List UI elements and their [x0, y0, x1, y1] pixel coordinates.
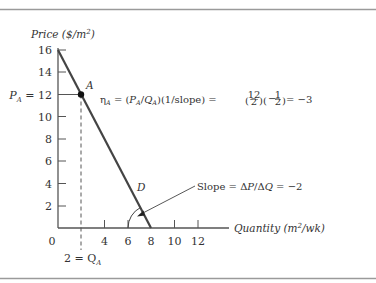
svg-text:2: 2: [251, 96, 257, 107]
y-ticks: [58, 50, 66, 206]
svg-text:(: (: [263, 95, 267, 106]
svg-text:4: 4: [101, 235, 108, 248]
y-tick-labels: 16 14 10 8 6 4 2: [38, 44, 52, 213]
svg-text:8: 8: [45, 133, 52, 146]
svg-text:ηA = (PA/QA)(1/slope) =: ηA = (PA/QA)(1/slope) =: [100, 94, 217, 107]
svg-text:6: 6: [125, 235, 132, 248]
svg-text:2: 2: [45, 200, 52, 213]
arrowhead-icon: [137, 211, 145, 217]
quantity-a-label: 2 = QA: [64, 252, 101, 267]
svg-text:8: 8: [148, 235, 155, 248]
svg-text:16: 16: [38, 44, 52, 57]
slope-annotation: Slope = ΔP/ΔQ = −2: [197, 181, 302, 192]
svg-text:0: 0: [49, 235, 56, 248]
svg-text:14: 14: [38, 66, 52, 79]
svg-text:2: 2: [275, 96, 281, 107]
price-a-label: PA = 12: [8, 89, 52, 104]
elasticity-equation: ηA = (PA/QA)(1/slope) = ( 12 2 ) ( − 1 2…: [100, 89, 312, 107]
y-axis-label: Price ($/m2): [30, 28, 95, 40]
demand-chart: Price ($/m2) 16 14 10 8 6 4 2 PA = 12 0 …: [0, 0, 376, 283]
point-a-marker: [78, 91, 84, 97]
svg-text:4: 4: [45, 178, 52, 191]
svg-text:10: 10: [38, 111, 52, 124]
svg-text:12: 12: [191, 235, 205, 248]
svg-text:6: 6: [45, 155, 52, 168]
slope-arrow-line: [141, 186, 195, 214]
svg-text:= −3: = −3: [286, 94, 312, 105]
x-tick-labels: 0 4 6 8 10 12: [49, 235, 206, 248]
x-axis-label: Quantity (m2/wk): [234, 222, 325, 235]
demand-curve: [58, 50, 151, 228]
angle-arc: [128, 208, 141, 229]
point-a-label: A: [85, 79, 94, 91]
svg-text:10: 10: [168, 235, 182, 248]
curve-d-label: D: [136, 181, 146, 193]
